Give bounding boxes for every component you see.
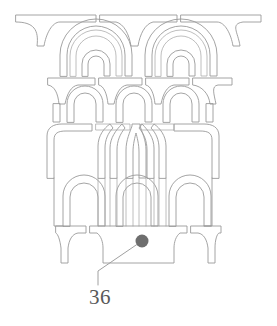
second-slab-3 [146,78,189,104]
callout-dot [136,235,149,248]
lancet-cap-left [96,124,130,130]
lancet-block-right [174,124,219,178]
figure-container: 36 [0,0,277,326]
upper-arch-left-outer [60,19,132,76]
lancet-arch-4 [139,124,154,178]
middle-arch-3 [163,86,199,122]
upper-arch-left-inner [70,30,122,76]
lancet-tier [47,124,219,178]
lancet-arch-2 [110,124,125,178]
upper-subarch-left [82,50,110,76]
lower-arcade [54,175,212,226]
base-footing-right [191,226,221,263]
lower-arch-1 [63,175,105,226]
lower-arch-3 [169,175,211,226]
middle-arch-2 [116,86,152,122]
architectural-drawing [0,0,277,326]
top-slab-right [181,15,261,46]
lower-wall-left [54,178,63,226]
middle-arch-1 [67,86,103,122]
callout-group [98,235,149,286]
lower-arch-2 [116,175,158,226]
top-slab-left [16,15,96,46]
lancet-block-left [47,124,92,178]
second-cornice-band [48,78,232,104]
middle-arcade [53,86,213,122]
top-cornice-band [16,15,261,46]
base-footing-left [56,226,86,263]
upper-subarch-right [167,50,195,76]
lancet-arch-1 [98,124,113,178]
upper-arch-right-outer [145,19,217,76]
second-slab-1 [48,78,95,104]
middle-pier-right [206,104,213,122]
middle-pier-left [53,104,60,122]
upper-arcade [60,19,217,76]
upper-arch-right-inner [155,30,207,76]
lancet-arch-3 [151,124,166,178]
callout-number-label: 36 [78,285,122,309]
second-slab-2 [99,78,142,104]
lancet-central-point [126,124,146,178]
